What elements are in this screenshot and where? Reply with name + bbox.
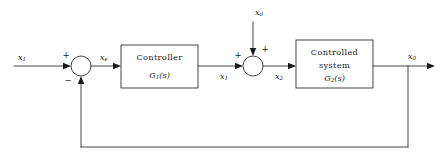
disturbance-junction-circle — [243, 56, 263, 76]
arrowhead-disturbance-to-junction — [250, 48, 256, 56]
sign-label-error-junction-feedback: − — [64, 75, 71, 85]
sign-label-disturbance-junction-disturbance: + — [261, 44, 268, 54]
signal-label-error: xe — [100, 53, 109, 63]
block-diagram-svg: x1 xe x1 xd x2 x0 + − + + Controller — [0, 0, 444, 162]
signal-label-input: x1 — [18, 53, 26, 63]
controller-block-transfer-function: G1(s) — [149, 70, 170, 81]
signal-label-plant-input: x2 — [275, 72, 284, 82]
signal-label-controller-output: x1 — [220, 72, 228, 82]
error-junction-circle — [71, 56, 91, 76]
arrowhead-junction-to-plant — [288, 63, 296, 69]
arrowhead-error-to-controller — [113, 63, 121, 69]
block-diagram-canvas: x1 xe x1 xd x2 x0 + − + + Controller — [0, 0, 444, 162]
controlled-system-block-title-line2: system — [319, 60, 350, 70]
controlled-system-block-transfer-function: G2(s) — [324, 73, 345, 84]
sign-label-disturbance-junction-input: + — [234, 50, 241, 60]
controlled-system-block-title-line1: Controlled — [311, 47, 358, 57]
sign-label-error-junction-input: + — [62, 50, 69, 60]
signal-label-output: x0 — [408, 52, 417, 62]
signal-label-disturbance: xd — [255, 8, 264, 18]
arrowhead-output — [427, 63, 435, 69]
arrowhead-controller-to-disturbance-junction — [235, 63, 243, 69]
arrowhead-feedback-into-error-junction — [78, 76, 84, 84]
arrowhead-input-to-error-junction — [63, 63, 71, 69]
controller-block-title: Controller — [136, 52, 182, 62]
